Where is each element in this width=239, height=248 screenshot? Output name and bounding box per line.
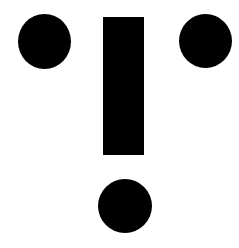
right-dot-icon xyxy=(179,14,232,68)
bottom-dot-icon xyxy=(98,179,152,233)
vertical-bar-icon xyxy=(103,17,144,155)
left-dot-icon xyxy=(18,14,71,69)
